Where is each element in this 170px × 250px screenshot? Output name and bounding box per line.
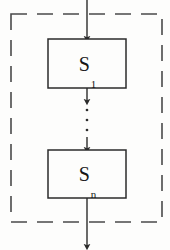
- node-label-s1-base: S: [79, 54, 90, 74]
- diagram-canvas: [0, 0, 170, 250]
- node-label-sn-subscript: n: [91, 189, 97, 200]
- flowchart-diagram: S1 Sn: [0, 0, 170, 250]
- node-label-sn: Sn: [48, 150, 126, 198]
- ellipsis-dot-2: [86, 119, 89, 122]
- ellipsis-dot-3: [86, 129, 89, 132]
- ellipsis-dot-1: [86, 109, 89, 112]
- node-label-sn-base: S: [79, 164, 90, 184]
- node-label-s1: S1: [48, 39, 126, 88]
- node-label-s1-subscript: 1: [91, 79, 97, 90]
